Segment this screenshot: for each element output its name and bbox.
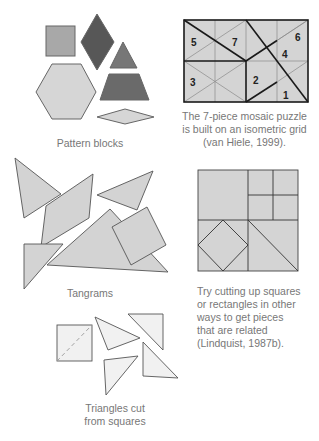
mosaic-puzzle-figure: 5 7 6 4 3 2 1 xyxy=(184,20,308,102)
mosaic-label-5: 5 xyxy=(191,37,197,48)
triangles-caption-line-2: from squares xyxy=(65,415,165,428)
pattern-block-square xyxy=(46,26,75,56)
mosaic-caption-line-2: is built on an isometric grid xyxy=(170,123,319,136)
mosaic-label-4: 4 xyxy=(282,49,288,60)
cut-squares-caption: Try cutting up squares or rectangles in … xyxy=(197,285,319,350)
cut-squares-caption-line-2: or rectangles in other xyxy=(197,298,319,311)
pattern-block-trapezoid xyxy=(100,74,149,100)
triangles-from-squares-figure xyxy=(57,314,178,395)
mosaic-label-3: 3 xyxy=(190,77,196,88)
mosaic-label-1: 1 xyxy=(283,90,289,101)
mosaic-caption-line-3: (van Hiele, 1999). xyxy=(170,136,319,149)
cut-squares-figure xyxy=(198,170,298,271)
cut-triangle-4 xyxy=(104,356,138,395)
tangram-small-triangle xyxy=(24,244,63,289)
mosaic-puzzle-caption: The 7-piece mosaic puzzle is built on an… xyxy=(170,110,319,149)
tangrams-figure xyxy=(15,158,168,289)
cut-squares-caption-line-1: Try cutting up squares xyxy=(197,285,319,298)
cut-triangle-1 xyxy=(95,317,140,350)
cut-squares-caption-line-4: that are related xyxy=(197,324,319,337)
mosaic-label-2: 2 xyxy=(253,75,259,86)
cut-squares-caption-line-3: ways to get pieces xyxy=(197,311,319,324)
pattern-block-rhombus xyxy=(81,14,114,70)
tangrams-caption-text: Tangrams xyxy=(67,287,113,299)
triangles-caption: Triangles cut from squares xyxy=(65,402,165,428)
mosaic-label-6: 6 xyxy=(295,32,301,43)
mosaic-caption-line-1: The 7-piece mosaic puzzle xyxy=(170,110,319,123)
pattern-blocks-figure xyxy=(36,14,154,124)
triangles-caption-line-1: Triangles cut xyxy=(65,402,165,415)
pattern-blocks-caption: Pattern blocks xyxy=(20,137,160,150)
tangrams-caption: Tangrams xyxy=(40,287,140,300)
tangram-medium-triangle xyxy=(97,171,153,210)
mosaic-label-7: 7 xyxy=(232,37,238,48)
cut-squares-caption-line-5: (Lindquist, 1987b). xyxy=(197,337,319,350)
pattern-blocks-caption-text: Pattern blocks xyxy=(57,137,124,149)
figure-canvas: 5 7 6 4 3 2 1 xyxy=(0,0,319,441)
pattern-block-triangle xyxy=(110,42,137,68)
pattern-block-thin-rhombus xyxy=(97,109,154,124)
pattern-block-hexagon xyxy=(36,64,96,119)
